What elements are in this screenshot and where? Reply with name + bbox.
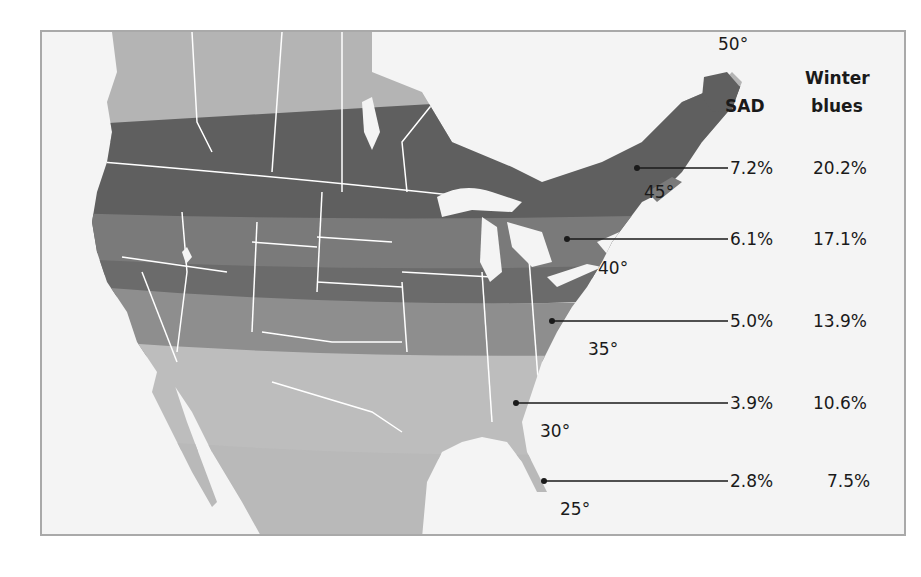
sad-value-45: 7.2% [730,158,773,178]
sad-value-40: 6.1% [730,229,773,249]
latitude-label-35: 35° [588,339,618,359]
winter-blues-value-30: 10.6% [813,393,867,413]
winter-blues-value-25: 7.5% [827,471,870,491]
map-figure: 50° 45° 40° 35° 30° 25° Winter SAD blues… [40,30,906,536]
latitude-label-25: 25° [560,499,590,519]
sad-value-30: 3.9% [730,393,773,413]
north-america-latitude-map [42,32,906,536]
latitude-label-30: 30° [540,421,570,441]
winter-blues-value-35: 13.9% [813,311,867,331]
header-winter-line2: blues [811,96,863,116]
latitude-label-45: 45° [644,182,674,202]
winter-blues-value-45: 20.2% [813,158,867,178]
latitude-label-40: 40° [598,258,628,278]
sad-value-25: 2.8% [730,471,773,491]
header-winter-line1: Winter [805,68,870,88]
latitude-label-50: 50° [718,34,748,54]
header-sad: SAD [725,96,765,116]
sad-value-35: 5.0% [730,311,773,331]
winter-blues-value-40: 17.1% [813,229,867,249]
